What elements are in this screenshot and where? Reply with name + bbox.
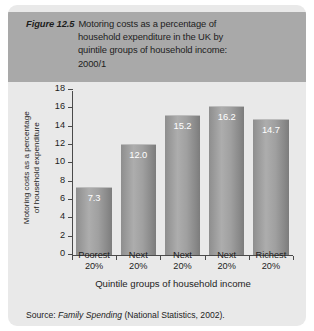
- x-category-label-line: 20%: [249, 261, 293, 272]
- y-tick: 18: [72, 89, 77, 90]
- y-tick-label: 10: [55, 156, 65, 166]
- bar-value-label: 15.2: [165, 120, 200, 131]
- y-tick: 8: [72, 181, 77, 182]
- figure-card: Figure 12.5Motoring costs as a percentag…: [8, 5, 306, 326]
- y-tick-label: 6: [60, 193, 65, 203]
- y-tick-label: 18: [55, 83, 65, 93]
- figure-title-line-3: quintile groups of household income:: [26, 43, 298, 56]
- figure-title-line-2: household expenditure in the UK by: [26, 30, 298, 43]
- plot-area: 024681012141618 7.312.015.216.214.7: [72, 91, 293, 256]
- y-tick-mark: [68, 144, 73, 145]
- x-axis-title: Quintile groups of household income: [48, 278, 298, 289]
- y-tick-mark: [68, 236, 73, 237]
- source-publication: Family Spending: [58, 310, 122, 320]
- bar-value-label: 12.0: [121, 149, 156, 160]
- y-tick-mark: [68, 162, 73, 163]
- y-tick: 16: [72, 107, 77, 108]
- x-category-label: Next20%: [116, 250, 160, 273]
- y-tick-label: 8: [60, 175, 65, 185]
- y-tick: 14: [72, 126, 77, 127]
- y-tick-label: 0: [60, 248, 65, 258]
- y-tick: 12: [72, 144, 77, 145]
- x-category-label-line: Next: [116, 250, 160, 261]
- figure-title-band: Figure 12.5Motoring costs as a percentag…: [8, 12, 306, 82]
- y-tick-label: 14: [55, 120, 65, 130]
- y-tick-mark: [68, 181, 73, 182]
- x-category-label-line: Next: [205, 250, 249, 261]
- x-category-label-line: 20%: [72, 261, 116, 272]
- y-axis-line: [72, 91, 73, 256]
- figure-number: Figure 12.5: [26, 18, 74, 29]
- x-category-label-line: 20%: [205, 261, 249, 272]
- y-axis-title-line-2: of household expenditure: [32, 82, 42, 254]
- x-category-label: Next20%: [205, 250, 249, 273]
- bar: 16.2: [209, 106, 244, 256]
- figure-title-line-1: Figure 12.5Motoring costs as a percentag…: [26, 17, 298, 30]
- x-category-label: Next20%: [160, 250, 204, 273]
- y-tick-mark: [68, 126, 73, 127]
- figure-title-line-4: 2000/1: [26, 57, 298, 70]
- y-tick: 10: [72, 162, 77, 163]
- bar-value-label: 7.3: [76, 192, 111, 203]
- x-category-label-line: Next: [160, 250, 204, 261]
- bar-value-label: 14.7: [253, 124, 288, 135]
- x-tick-mark: [293, 256, 294, 260]
- source-suffix: (National Statistics, 2002).: [122, 310, 225, 320]
- bar: 12.0: [121, 144, 156, 255]
- x-category-label-line: 20%: [116, 261, 160, 272]
- figure-title-part-1: Motoring costs as a percentage of: [78, 18, 216, 29]
- source-prefix: Source:: [26, 310, 58, 320]
- y-tick-label: 12: [55, 138, 65, 148]
- figure-title-text: Figure 12.5Motoring costs as a percentag…: [26, 17, 298, 70]
- x-category-label-line: 20%: [160, 261, 204, 272]
- y-tick-mark: [68, 199, 73, 200]
- bar: 15.2: [165, 115, 200, 255]
- x-category-label: Poorest20%: [72, 250, 116, 273]
- y-tick-mark: [68, 107, 73, 108]
- chart-region: Motoring costs as a percentage of househ…: [8, 82, 306, 304]
- bar: 14.7: [253, 119, 288, 255]
- x-category-label-line: Poorest: [72, 250, 116, 261]
- x-category-label: Richest20%: [249, 250, 293, 273]
- y-tick-label: 2: [60, 230, 65, 240]
- y-tick-label: 4: [60, 211, 65, 221]
- y-tick-label: 16: [55, 101, 65, 111]
- y-axis-title-line-1: Motoring costs as a percentage: [22, 82, 32, 254]
- y-tick-mark: [68, 217, 73, 218]
- y-tick-mark: [68, 89, 73, 90]
- source-note: Source: Family Spending (National Statis…: [26, 310, 225, 320]
- bar: 7.3: [76, 187, 111, 255]
- y-axis-title: Motoring costs as a percentage of househ…: [22, 82, 42, 254]
- bar-value-label: 16.2: [209, 111, 244, 122]
- x-category-label-line: Richest: [249, 250, 293, 261]
